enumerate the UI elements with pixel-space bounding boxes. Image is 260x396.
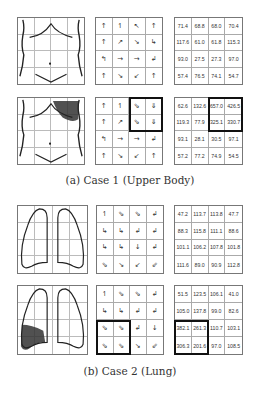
flow-arrow-icon: ↑ (146, 148, 163, 165)
flow-grid-1: ↑↿↖↑↑↗↘↳↰→→↲↑↘↙↑ (95, 17, 163, 85)
value-cell: 110.7 (209, 320, 226, 337)
value-cell: 108.5 (225, 337, 242, 354)
value-cell: 54.5 (225, 148, 242, 165)
value-cell: 27.3 (209, 51, 226, 68)
flow-arrow-icon: ↑ (96, 68, 113, 85)
value-cell: 97.0 (225, 51, 242, 68)
highlight-box (174, 320, 209, 355)
value-cell: 123.5 (192, 286, 209, 303)
value-cell: 115.3 (225, 35, 242, 52)
value-cell: 97.1 (225, 131, 242, 148)
lung-image-1 (17, 205, 88, 274)
value-cell: 117.6 (175, 35, 192, 52)
value-cell: 101.8 (225, 240, 242, 257)
flow-arrow-icon: ↘ (130, 337, 147, 354)
upper-body-image-1 (17, 17, 85, 85)
value-cell: 93.0 (175, 51, 192, 68)
upper-body-outline-icon (18, 18, 84, 84)
flow-arrow-icon: ↗ (113, 35, 130, 52)
flow-arrow-icon: ↑ (96, 18, 113, 35)
lung-shaded-outline-icon (18, 286, 87, 354)
flow-arrow-icon: → (113, 131, 130, 148)
value-cell: 57.2 (175, 148, 192, 165)
flow-arrow-icon: ⇙ (147, 337, 164, 354)
flow-arrow-icon: ↳ (97, 240, 114, 257)
caption-case-2: (b) Case 2 (Lung) (0, 365, 260, 377)
value-cell: 113.7 (192, 206, 209, 223)
flow-arrow-icon: ↑ (96, 115, 113, 132)
value-cell: 28.1 (192, 131, 209, 148)
value-cell: 27.5 (192, 51, 209, 68)
value-cell: 68.0 (209, 18, 226, 35)
flow-arrow-icon: ↗ (113, 115, 130, 132)
flow-arrow-icon: ↿ (113, 18, 130, 35)
value-cell: 30.5 (209, 131, 226, 148)
value-cell: 61.0 (192, 35, 209, 52)
value-cell: 97.0 (209, 337, 226, 354)
flow-arrow-icon: ⇘ (130, 286, 147, 303)
value-cell: 112.8 (225, 256, 242, 273)
value-cell: 111.6 (175, 256, 192, 273)
lung-image-2 (17, 285, 88, 355)
flow-arrow-icon: ↲ (147, 206, 164, 223)
lung-outline-icon (18, 206, 87, 273)
value-cell: 77.9 (192, 115, 209, 132)
value-cell: 106.1 (209, 286, 226, 303)
value-table-3: 47.2113.7113.847.788.3115.8111.188.6101.… (174, 205, 243, 274)
flow-arrow-icon: ↘ (129, 35, 146, 52)
flow-arrow-icon: ↖ (129, 18, 146, 35)
flow-arrow-icon: ↳ (114, 240, 131, 257)
flow-arrow-icon: ⇘ (97, 256, 114, 273)
value-cell: 41.0 (225, 286, 242, 303)
flow-arrow-icon: ↲ (147, 223, 164, 240)
value-cell: 71.4 (175, 18, 192, 35)
upper-body-image-2 (17, 97, 85, 165)
value-cell: 115.8 (192, 223, 209, 240)
value-cell: 111.1 (209, 223, 226, 240)
value-cell: 99.0 (209, 303, 226, 320)
value-cell: 88.3 (175, 223, 192, 240)
highlight-box (129, 97, 163, 132)
flow-arrow-icon: ↳ (114, 303, 131, 320)
flow-arrow-icon: ⇘ (130, 206, 147, 223)
highlight-box (96, 320, 131, 355)
flow-arrow-icon: ↳ (97, 303, 114, 320)
value-cell: 101.1 (175, 240, 192, 257)
flow-arrow-icon: ⇘ (114, 206, 131, 223)
flow-arrow-icon: ↑ (146, 18, 163, 35)
value-cell: 61.8 (209, 35, 226, 52)
value-cell: 57.4 (175, 68, 192, 85)
highlight-box (208, 97, 243, 132)
flow-arrow-icon: ↲ (146, 51, 163, 68)
flow-arrow-icon: ↿ (97, 286, 114, 303)
value-cell: 105.0 (175, 303, 192, 320)
flow-arrow-icon: ↓ (130, 240, 147, 257)
flow-arrow-icon: ↙ (129, 68, 146, 85)
flow-arrow-icon: ↲ (130, 320, 147, 337)
flow-arrow-icon: ↓ (147, 320, 164, 337)
flow-arrow-icon: ↙ (130, 256, 147, 273)
value-cell: 47.7 (225, 206, 242, 223)
value-cell: 70.4 (225, 18, 242, 35)
value-cell: 74.9 (209, 148, 226, 165)
flow-arrow-icon: ↑ (146, 68, 163, 85)
flow-arrow-icon: ↰ (96, 131, 113, 148)
flow-arrow-icon: ⇘ (114, 286, 131, 303)
value-cell: 62.6 (175, 98, 192, 115)
flow-arrow-icon: ↳ (114, 223, 131, 240)
value-cell: 132.6 (192, 98, 209, 115)
flow-arrow-icon: ↑ (96, 35, 113, 52)
value-cell: 106.2 (192, 240, 209, 257)
flow-arrow-icon: → (129, 131, 146, 148)
flow-arrow-icon: ↲ (147, 286, 164, 303)
value-cell: 82.6 (225, 303, 242, 320)
value-cell: 90.9 (209, 256, 226, 273)
flow-arrow-icon: → (129, 51, 146, 68)
value-cell: 88.6 (225, 223, 242, 240)
flow-arrow-icon: ↲ (130, 223, 147, 240)
value-table-1: 71.468.868.070.4117.661.061.8115.393.027… (174, 17, 243, 85)
upper-body-shaded-outline-icon (18, 98, 84, 164)
flow-arrow-icon: ↘ (113, 68, 130, 85)
flow-arrow-icon: ↿ (113, 98, 130, 115)
value-cell: 76.5 (192, 68, 209, 85)
